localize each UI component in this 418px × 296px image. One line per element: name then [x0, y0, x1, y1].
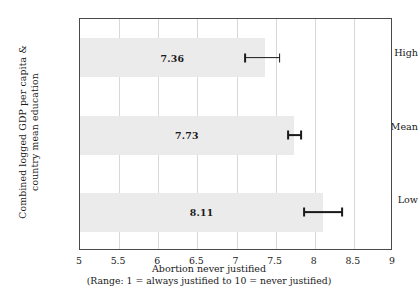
error-bar-cap-low-upper — [341, 208, 343, 217]
bar-value-label-mean: 7.73 — [175, 130, 199, 141]
error-bar-mean — [288, 134, 301, 136]
error-bar-cap-mean-lower — [287, 131, 289, 140]
gridline — [354, 19, 355, 249]
error-bar-cap-low-lower — [303, 208, 305, 217]
x-axis-title-range-note: (Range: 1 = always justified to 10 = nev… — [0, 275, 418, 287]
y-axis-title-line-2: country mean education — [29, 73, 41, 191]
plot-area: 7.367.738.11 — [79, 18, 392, 250]
bar-value-label-low: 8.11 — [190, 207, 214, 218]
y-axis-title: Combined logged GDP per capita & country… — [12, 16, 46, 248]
error-bar-cap-high-upper — [279, 53, 281, 62]
x-axis-title: Abortion never justified (Range: 1 = alw… — [0, 263, 418, 288]
chart-container: Combined logged GDP per capita & country… — [0, 0, 418, 296]
error-bar-cap-mean-upper — [301, 131, 303, 140]
error-bar-high — [245, 57, 279, 59]
bar-value-label-high: 7.36 — [161, 52, 185, 63]
y-axis-title-line-1: Combined logged GDP per capita & — [17, 45, 29, 219]
error-bar-cap-high-lower — [244, 53, 246, 62]
error-bar-low — [304, 211, 342, 213]
x-axis-title-main: Abortion never justified — [0, 263, 418, 275]
